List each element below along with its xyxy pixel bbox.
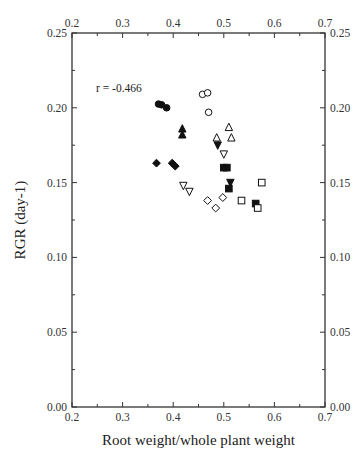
y-tick-label-left: 0.20 [47,102,67,114]
x-tick-label-top: 0.3 [115,17,130,29]
y-tick-label-right: 0.05 [330,326,350,338]
point-open-circle [204,90,211,97]
point-filled-triangle-down [214,142,221,149]
x-axis-title: Root weight/whole plant weight [102,432,296,448]
point-open-triangle [228,134,235,141]
point-filled-circle [163,105,170,112]
point-open-triangle [213,134,220,141]
tick-labels: 0.20.20.30.30.40.40.50.50.60.60.70.70.00… [47,17,351,423]
scatter-chart: 0.20.20.30.30.40.40.50.50.60.60.70.70.00… [0,0,364,457]
point-open-triangle [225,123,232,130]
point-filled-square [224,164,231,171]
y-tick-label-left: 0.25 [47,27,67,39]
point-filled-square [226,185,233,192]
point-open-square [258,179,265,186]
y-tick-label-left: 0.10 [47,251,67,263]
point-open-diamond [219,194,227,202]
y-tick-label-left: 0.15 [47,177,67,189]
point-open-circle [205,109,212,116]
x-tick-label-top: 0.2 [65,17,80,29]
y-tick-label-right: 0.25 [330,27,350,39]
x-tick-label-bottom: 0.5 [217,411,232,423]
point-open-triangle-down [220,151,227,158]
y-tick-label-right: 0.15 [330,177,350,189]
data-points [153,90,265,212]
point-open-triangle-down [186,188,193,195]
x-tick-label-bottom: 0.6 [267,411,282,423]
x-tick-label-top: 0.6 [267,17,282,29]
y-tick-label-right: 0.00 [330,401,350,413]
point-open-diamond [212,204,220,212]
y-tick-label-left: 0.05 [47,326,67,338]
y-axis-title: RGR (day-1) [12,181,29,260]
correlation-annotation: r = -0.466 [96,82,142,94]
point-open-square [238,197,245,204]
y-tick-label-left: 0.00 [47,401,67,413]
x-tick-label-top: 0.4 [166,17,181,29]
y-tick-label-right: 0.20 [330,102,350,114]
point-filled-diamond [153,159,161,167]
x-tick-label-top: 0.5 [217,17,232,29]
x-tick-label-bottom: 0.3 [115,411,130,423]
x-tick-label-bottom: 0.2 [65,411,80,423]
x-tick-label-bottom: 0.4 [166,411,181,423]
point-open-square [254,205,261,212]
y-tick-label-right: 0.10 [330,251,350,263]
point-open-diamond [204,197,212,205]
